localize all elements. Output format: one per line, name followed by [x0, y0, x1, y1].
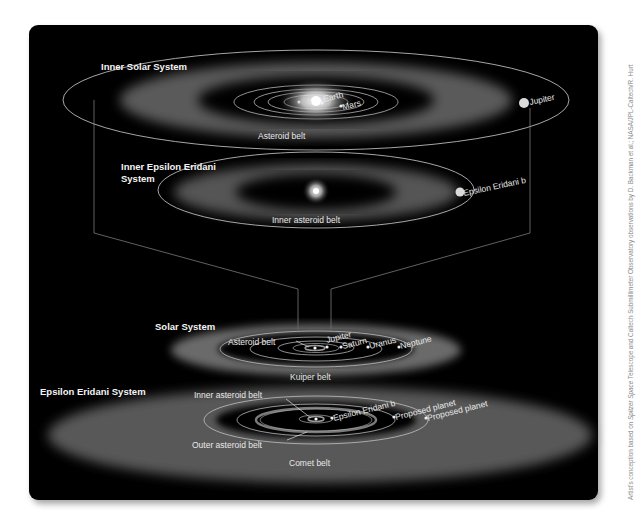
outer-asteroid-belt-label: Outer asteroid belt [192, 440, 263, 450]
solar-system-title: Solar System [155, 321, 215, 332]
jupiter-dot-small [325, 345, 328, 348]
inner-epsilon-eridani-title-line1: Inner Epsilon Eridani [121, 161, 216, 172]
epsilon-eridani-system-title: Epsilon Eridani System [40, 386, 146, 397]
solar-system-section: Solar System Asteroid belt Jupiter Satur… [155, 321, 461, 382]
credit-prefix: Artist's conception based on [627, 420, 634, 500]
inner-solar-system-title: Inner Solar System [101, 61, 187, 72]
venus-dot [309, 101, 312, 104]
inner-solar-system-section: Inner Solar System Earth Mars Jupiter As… [63, 50, 569, 150]
epsilon-eridani-star [313, 188, 319, 194]
mercury-dot [298, 101, 301, 104]
jupiter-label: Jupiter [528, 92, 555, 107]
credit-telescope: Spitzer Space [627, 381, 634, 420]
solar-system-comparison-diagram: Inner Solar System Earth Mars Jupiter As… [0, 0, 644, 522]
epsilon-eridani-b-label: Epsilon Eridani b [462, 175, 527, 198]
sun [311, 96, 321, 106]
inner-epsilon-eridani-title-line2: System [121, 173, 155, 184]
epsilon-eridani-star-small [314, 417, 317, 420]
epsilon-eridani-system-section: Epsilon Eridani System Inner asteroid be… [40, 386, 592, 483]
sun-small [313, 346, 316, 349]
image-credit: Artist's conception based on Spitzer Spa… [627, 20, 634, 500]
jupiter-dot [519, 98, 529, 108]
kuiper-belt-label: Kuiper belt [290, 372, 331, 382]
solar-asteroid-belt-label: Asteroid belt [228, 337, 276, 347]
inner-asteroid-belt-label: Inner asteroid belt [272, 215, 341, 225]
asteroid-belt-label: Asteroid belt [258, 131, 306, 141]
epsilon-inner-asteroid-belt-label: Inner asteroid belt [194, 390, 263, 400]
comet-belt-label: Comet belt [289, 458, 331, 468]
inner-epsilon-eridani-section: Inner Epsilon Eridani System Epsilon Eri… [121, 152, 527, 228]
credit-suffix: Telescope and Caltech Submillimeter Obse… [627, 65, 634, 381]
